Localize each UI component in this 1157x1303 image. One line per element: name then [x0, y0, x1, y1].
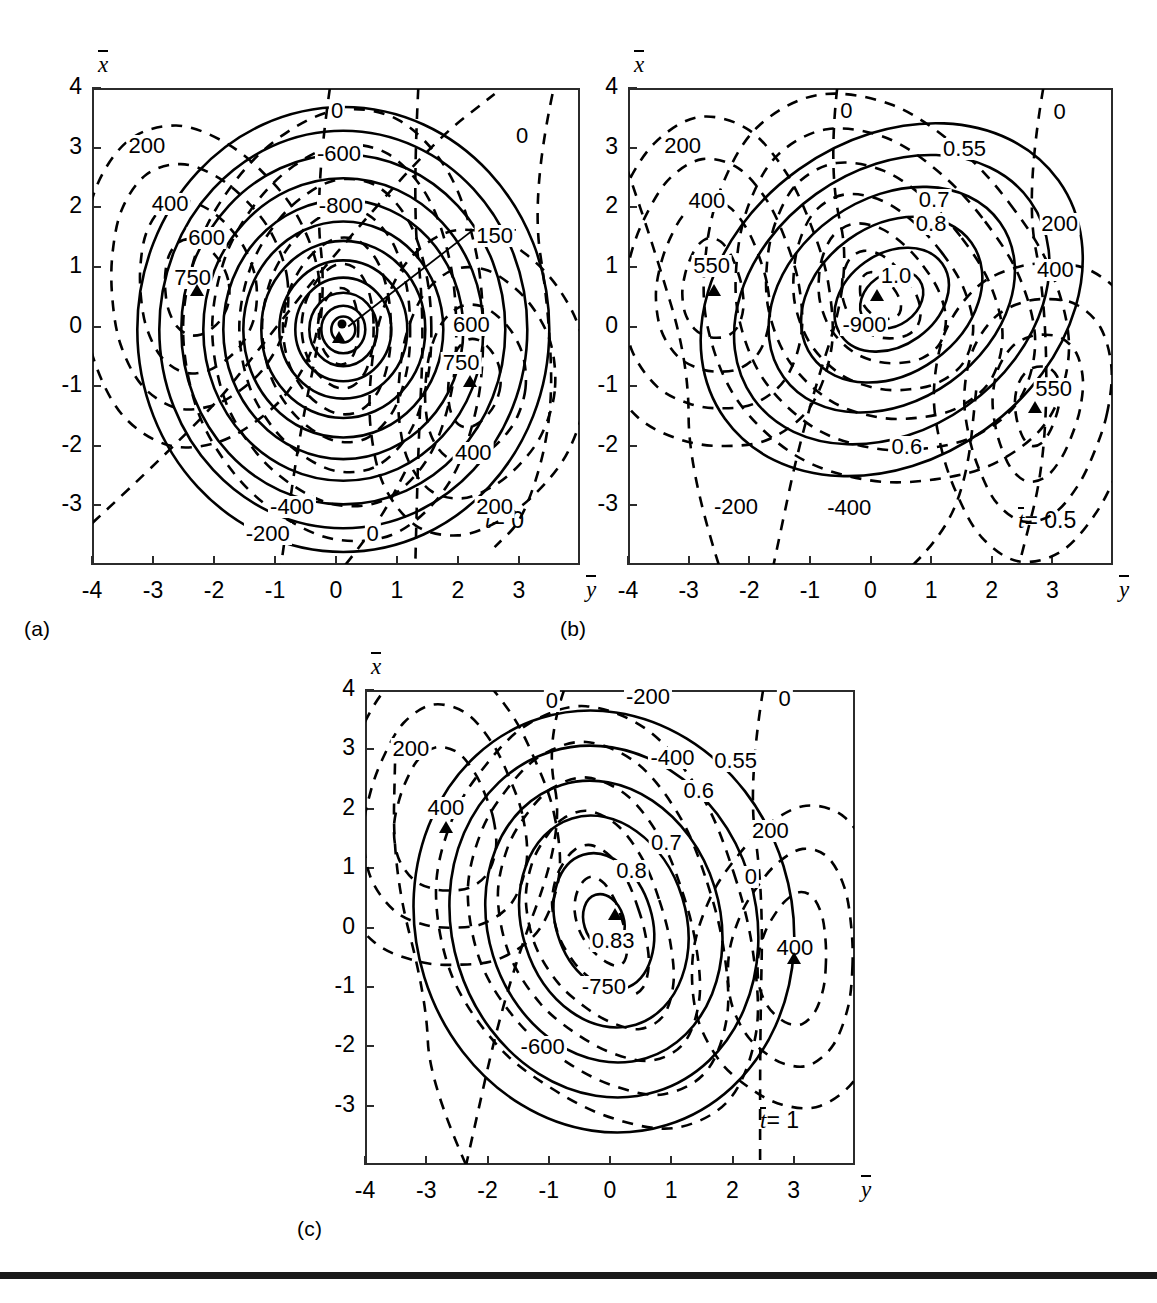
contour-label: 1.0: [879, 265, 914, 287]
contour-label: 0.8: [914, 213, 949, 235]
contour-label: -400: [268, 496, 316, 518]
contour-label: 0.83: [590, 930, 637, 952]
contour-label: 0: [544, 690, 560, 712]
contour-label: 400: [686, 190, 727, 212]
contour-label: 400: [1035, 259, 1076, 281]
contour-label: 200: [662, 135, 703, 157]
contour-label: -600: [519, 1036, 567, 1058]
contour-label: 550: [1033, 378, 1074, 400]
extremum-triangle-marker: [707, 284, 721, 296]
contour-label: 200: [750, 820, 791, 842]
contour-label: -200: [712, 496, 760, 518]
extremum-triangle-marker: [332, 331, 346, 343]
contour-label: 600: [186, 227, 227, 249]
contour-label: 400: [453, 442, 494, 464]
contour-label: 0.8: [614, 860, 649, 882]
contour-label: 0: [1052, 101, 1068, 123]
contour-label: 200: [1039, 213, 1080, 235]
contour-label: 0: [364, 523, 380, 545]
figure-root: -4-3-2-1012343210-1-2-3yxt= 0(a)00200-60…: [0, 0, 1157, 1303]
contour-label: 0.7: [649, 832, 684, 854]
extremum-triangle-marker: [870, 289, 884, 301]
contour-label: -400: [648, 747, 696, 769]
contour-label: -200: [624, 686, 672, 708]
contour-label: 200: [127, 135, 168, 157]
contour-label: 0: [776, 688, 792, 710]
contour-label: -800: [317, 195, 365, 217]
contour-label: 0: [838, 100, 854, 122]
contour-label: 0: [329, 100, 345, 122]
contour-label: 0: [743, 866, 759, 888]
contour-label: -200: [244, 523, 292, 545]
contour-label: 600: [451, 314, 492, 336]
contour-label: 0.7: [917, 189, 952, 211]
contour-label: 0.6: [682, 780, 717, 802]
extremum-triangle-marker: [787, 952, 801, 964]
contour-label: 0: [514, 125, 530, 147]
contour-label: -900: [840, 314, 888, 336]
extremum-triangle-marker: [1028, 401, 1042, 413]
contour-label: 750: [441, 352, 482, 374]
contour-label: -600: [315, 143, 363, 165]
contour-label: 550: [691, 255, 732, 277]
contour-label: 0.6: [890, 436, 925, 458]
contour-label: 0.55: [941, 138, 988, 160]
contour-label: 150: [474, 225, 515, 247]
contour-label: 200: [391, 738, 432, 760]
extremum-triangle-marker: [463, 375, 477, 387]
contour-label: 0.55: [712, 750, 759, 772]
contour-label: -750: [580, 976, 628, 998]
contour-label: 400: [150, 193, 191, 215]
contour-label: 400: [425, 797, 466, 819]
contour-label: 200: [474, 496, 515, 518]
extremum-triangle-marker: [608, 908, 622, 920]
extremum-triangle-marker: [190, 284, 204, 296]
extremum-triangle-marker: [439, 821, 453, 833]
center-dot-marker: [338, 319, 347, 328]
contour-label: -400: [825, 497, 873, 519]
